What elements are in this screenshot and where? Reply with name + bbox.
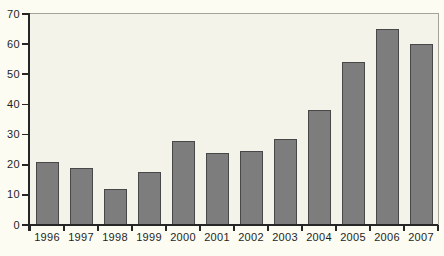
y-tick <box>22 134 28 136</box>
bar-2007 <box>410 44 433 225</box>
bar-2005 <box>342 62 365 225</box>
y-tick <box>22 104 28 106</box>
y-tick <box>22 194 28 196</box>
bar-2002 <box>240 151 263 225</box>
y-tick-label: 70 <box>0 9 20 20</box>
bar-1996 <box>36 162 59 225</box>
y-tick <box>22 43 28 45</box>
bar-2003 <box>274 139 297 225</box>
bar-1998 <box>104 189 127 225</box>
bar-2000 <box>172 141 195 225</box>
y-tick-label: 40 <box>0 99 20 110</box>
bar-2004 <box>308 110 331 225</box>
y-tick-label: 30 <box>0 129 20 140</box>
y-tick-label: 20 <box>0 159 20 170</box>
y-tick <box>22 164 28 166</box>
bar-2006 <box>376 29 399 225</box>
bar-2001 <box>206 153 229 225</box>
y-axis-line <box>28 13 30 231</box>
bar-chart: 010203040506070 199619971998199920002001… <box>0 0 444 256</box>
x-tick-label: 2007 <box>400 231 442 243</box>
y-tick-label: 50 <box>0 69 20 80</box>
bar-1999 <box>138 172 161 225</box>
y-tick-label: 0 <box>0 220 20 231</box>
y-tick <box>22 13 28 15</box>
bar-1997 <box>70 168 93 225</box>
y-tick-label: 60 <box>0 39 20 50</box>
y-tick-label: 10 <box>0 189 20 200</box>
y-tick <box>22 73 28 75</box>
